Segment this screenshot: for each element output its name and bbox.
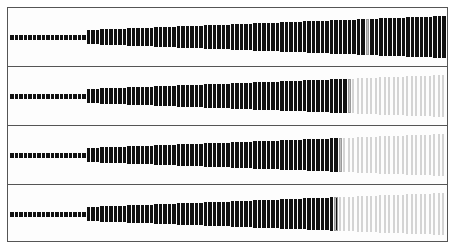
level-bar <box>424 17 428 58</box>
meter-row-4[interactable]: Row 4 <box>8 184 447 243</box>
level-bar <box>303 198 307 229</box>
level-bar <box>177 144 181 165</box>
level-bar <box>316 139 320 171</box>
level-bar <box>334 20 338 53</box>
level-bar <box>289 81 293 111</box>
level-bar <box>172 145 176 166</box>
level-bar <box>51 212 55 217</box>
level-bar <box>312 80 316 112</box>
level-bar <box>60 212 64 217</box>
level-bar <box>37 212 41 217</box>
level-bar <box>10 212 14 217</box>
level-bar <box>51 94 55 99</box>
level-bar <box>186 203 190 225</box>
level-bar <box>208 202 212 226</box>
level-bar <box>388 195 390 233</box>
level-bar <box>24 153 28 158</box>
level-bar <box>208 84 212 108</box>
level-bar <box>267 23 271 51</box>
level-bar <box>316 21 320 53</box>
level-bar <box>37 94 41 99</box>
level-bar <box>226 25 230 50</box>
level-bar <box>231 24 235 49</box>
level-bar <box>168 145 172 165</box>
level-bar <box>294 81 298 111</box>
level-bar <box>217 202 221 226</box>
level-bar <box>195 85 199 108</box>
level-bar <box>289 22 293 52</box>
level-bar <box>82 153 86 158</box>
level-bar <box>87 30 91 44</box>
level-bar <box>280 81 284 110</box>
level-bar <box>204 143 208 166</box>
level-bar <box>298 140 302 171</box>
level-bar <box>249 83 253 110</box>
level-bar <box>352 79 354 114</box>
level-bar <box>258 82 262 109</box>
meter-row-2[interactable]: Row 2 <box>8 66 447 125</box>
level-bar <box>195 203 199 226</box>
level-bar <box>361 196 363 232</box>
level-bar <box>150 87 154 106</box>
bar-track[interactable] <box>10 185 445 243</box>
level-bar <box>411 17 415 57</box>
level-bar <box>433 75 435 116</box>
level-bar <box>402 77 404 116</box>
level-bar <box>132 146 136 164</box>
level-bar <box>325 21 329 54</box>
level-bar <box>388 18 392 56</box>
level-bar <box>429 135 431 176</box>
level-bar <box>145 87 149 106</box>
level-bar <box>28 94 32 99</box>
level-bar <box>91 207 95 221</box>
level-bar <box>46 212 50 217</box>
level-bar <box>375 137 377 174</box>
level-bar <box>262 141 266 169</box>
level-bar <box>271 141 275 170</box>
level-bar <box>406 17 410 56</box>
level-bar <box>271 82 275 111</box>
level-bar <box>19 153 23 158</box>
level-bar <box>154 145 158 164</box>
level-bar <box>280 22 284 51</box>
level-bar <box>321 139 325 171</box>
level-bar <box>82 94 86 99</box>
level-bar <box>132 28 136 46</box>
level-bar <box>60 94 64 99</box>
level-bar <box>163 204 167 224</box>
level-bar <box>190 26 194 48</box>
level-bar <box>145 205 149 224</box>
level-bar <box>186 85 190 107</box>
level-bar <box>100 88 104 103</box>
level-bar <box>240 24 244 50</box>
level-bar <box>55 35 59 40</box>
level-bar <box>69 153 73 158</box>
bar-track[interactable] <box>10 126 445 184</box>
level-bar <box>339 79 343 113</box>
level-bar <box>420 17 424 57</box>
level-bar <box>118 147 122 163</box>
level-bar <box>159 145 163 165</box>
meter-row-3[interactable]: Row 3 <box>8 125 447 184</box>
level-bar <box>235 24 239 50</box>
level-bar <box>172 86 176 107</box>
bar-track[interactable] <box>10 67 445 125</box>
level-bar <box>442 193 444 235</box>
level-bar <box>96 148 100 163</box>
level-bar <box>366 78 368 114</box>
level-bar <box>217 84 221 108</box>
bar-track[interactable] <box>10 8 445 67</box>
level-bar <box>307 198 311 229</box>
level-bar <box>375 19 379 56</box>
level-bar <box>276 141 280 170</box>
level-bar <box>28 153 32 158</box>
level-bar <box>442 16 446 58</box>
level-bar <box>285 22 289 52</box>
level-bar <box>46 153 50 158</box>
meter-row-1[interactable]: Row 1 <box>8 8 447 67</box>
level-bar <box>262 82 266 110</box>
level-bar <box>249 142 253 169</box>
level-bar <box>231 201 235 226</box>
level-bar <box>190 144 194 166</box>
level-bar <box>69 35 73 40</box>
